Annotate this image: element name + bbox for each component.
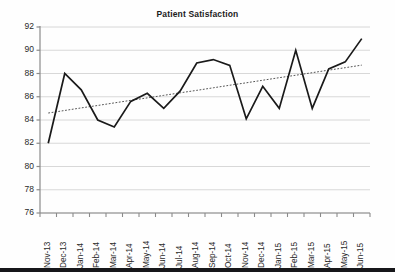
trend-line	[48, 65, 362, 113]
data-series-line	[48, 39, 362, 144]
axis-ticks	[37, 27, 371, 217]
x-tick-label: Mar-14	[109, 242, 118, 268]
x-tick-label: Jun-15	[356, 243, 365, 268]
x-tick-label: Jul-14	[175, 246, 184, 268]
x-tick-label: Apr-14	[125, 243, 134, 268]
x-tick-label: Jan-14	[76, 243, 85, 268]
x-tick-label: Apr-15	[323, 243, 332, 268]
x-tick-label: Aug-14	[191, 242, 200, 268]
x-tick-label: Jan-15	[274, 243, 283, 268]
x-tick-label: Sep-14	[208, 242, 217, 268]
page-margin	[0, 272, 395, 277]
x-tick-label: Feb-15	[290, 242, 299, 268]
x-tick-label: Mar-15	[307, 242, 316, 268]
x-tick-label: Oct-14	[224, 243, 233, 268]
x-tick-label: May-15	[340, 241, 349, 268]
gridlines	[40, 27, 370, 213]
x-tick-label: Nov-13	[43, 242, 52, 268]
x-tick-label: Dec-14	[257, 242, 266, 268]
axis-lines	[40, 26, 370, 213]
x-tick-label: May-14	[142, 241, 151, 268]
x-tick-label: Jun-14	[158, 243, 167, 268]
chart-screenshot: Patient Satisfaction 767880828486889092 …	[0, 0, 395, 277]
x-tick-label: Feb-14	[92, 242, 101, 268]
x-axis-labels: Nov-13Dec-13Jan-14Feb-14Mar-14Apr-14May-…	[0, 216, 395, 272]
x-tick-label: Nov-14	[241, 242, 250, 268]
x-tick-label: Dec-13	[59, 242, 68, 268]
